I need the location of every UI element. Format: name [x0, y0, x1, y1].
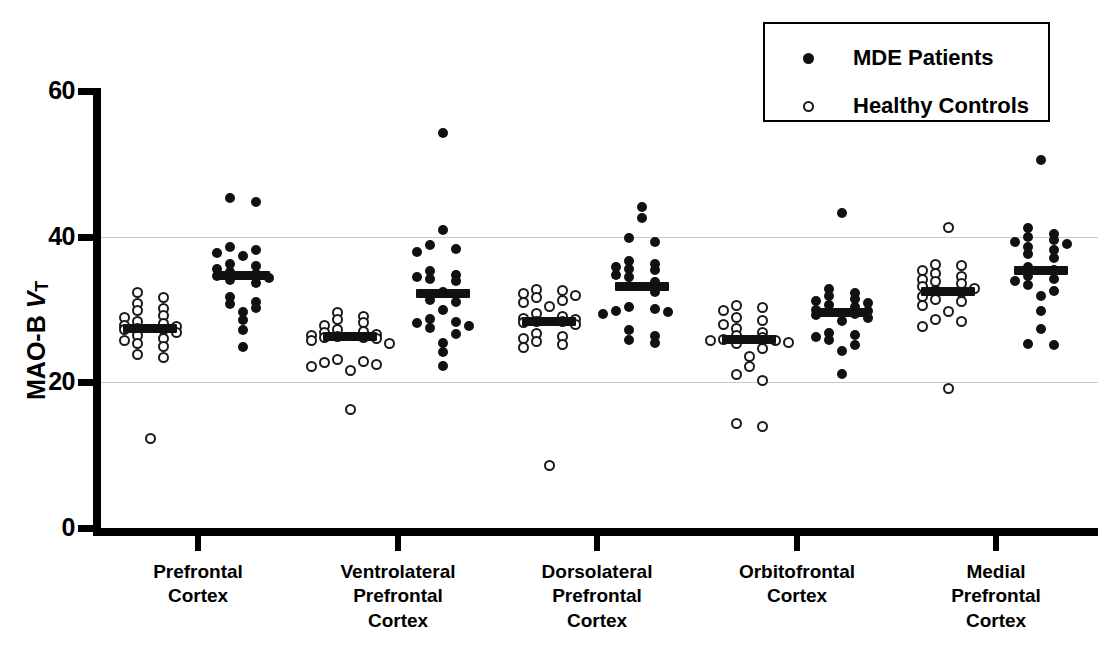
x-tick-3 — [794, 536, 800, 551]
data-point — [212, 248, 222, 258]
data-point — [251, 303, 261, 313]
data-point — [544, 460, 555, 471]
data-point — [705, 335, 716, 346]
x-category-label-0: Prefrontal Cortex — [88, 560, 308, 609]
y-axis-line — [93, 88, 101, 533]
mean-bar — [522, 317, 576, 326]
data-point — [850, 340, 860, 350]
data-point — [464, 321, 474, 331]
data-point — [731, 312, 742, 323]
data-point — [718, 305, 729, 316]
data-point — [425, 323, 435, 333]
data-point — [637, 202, 647, 212]
data-point — [238, 342, 248, 352]
data-point — [158, 292, 169, 303]
y-tick-label-60: 60 — [20, 78, 75, 103]
data-point — [1010, 276, 1020, 286]
data-point — [757, 302, 768, 313]
data-point — [238, 251, 248, 261]
data-point — [225, 242, 235, 252]
data-point — [917, 321, 928, 332]
data-point — [132, 287, 143, 298]
data-point — [438, 225, 448, 235]
mean-bar — [416, 289, 470, 298]
legend-entry-healthy-controls[interactable]: Healthy Controls — [765, 90, 1052, 122]
data-point — [570, 290, 581, 301]
data-point — [757, 375, 768, 386]
data-point — [650, 338, 660, 348]
gridline-40 — [100, 237, 1098, 238]
data-point — [358, 356, 369, 367]
data-point — [438, 347, 448, 357]
data-point — [917, 300, 928, 311]
data-point — [119, 335, 130, 346]
data-point — [1036, 155, 1046, 165]
x-tick-2 — [594, 536, 600, 551]
data-point — [956, 260, 967, 271]
data-point — [238, 315, 248, 325]
data-point — [451, 317, 461, 327]
legend-label: Healthy Controls — [853, 93, 1029, 119]
data-point — [650, 237, 660, 247]
data-point — [744, 351, 755, 362]
data-point — [251, 278, 261, 288]
x-category-label-1: Ventrolateral Prefrontal Cortex — [288, 560, 508, 633]
data-point — [731, 300, 742, 311]
data-point — [611, 270, 621, 280]
data-point — [757, 315, 768, 326]
data-point — [345, 365, 356, 376]
data-point — [731, 418, 742, 429]
x-category-label-2: Dorsolateral Prefrontal Cortex — [487, 560, 707, 633]
data-point — [544, 301, 555, 312]
data-point — [451, 297, 461, 307]
y-tick-label-40: 40 — [20, 224, 75, 249]
data-point — [306, 335, 317, 346]
data-point — [837, 208, 847, 218]
data-point — [731, 369, 742, 380]
data-point — [757, 343, 768, 354]
x-category-label-4: Medial Prefrontal Cortex — [886, 560, 1106, 633]
y-tick-60 — [78, 88, 94, 95]
data-point — [811, 332, 821, 342]
data-point — [783, 337, 794, 348]
data-point — [371, 359, 382, 370]
data-point — [438, 305, 448, 315]
data-point — [557, 295, 568, 306]
data-point — [425, 240, 435, 250]
data-point — [158, 341, 169, 352]
data-point — [425, 274, 435, 284]
filled-circle-icon — [803, 53, 814, 64]
data-point — [306, 361, 317, 372]
data-point — [451, 329, 461, 339]
data-point — [1062, 239, 1072, 249]
mean-bar — [921, 287, 975, 296]
data-point — [145, 433, 156, 444]
data-point — [663, 307, 673, 317]
mean-bar — [1014, 266, 1068, 275]
data-point — [1023, 339, 1033, 349]
data-point — [943, 306, 954, 317]
data-point — [451, 244, 461, 254]
data-point — [557, 339, 568, 350]
x-category-label-3: Orbitofrontal Cortex — [687, 560, 907, 609]
data-point — [611, 306, 621, 316]
mean-bar — [216, 271, 270, 280]
data-point — [225, 299, 235, 309]
legend-entry-mde-patients[interactable]: MDE Patients — [765, 42, 1052, 74]
data-point — [412, 272, 422, 282]
data-point — [238, 325, 248, 335]
x-tick-0 — [195, 536, 201, 551]
data-point — [158, 352, 169, 363]
data-point — [1023, 232, 1033, 242]
data-point — [438, 128, 448, 138]
data-point — [1010, 237, 1020, 247]
data-point — [531, 292, 542, 303]
data-point — [744, 361, 755, 372]
x-tick-1 — [395, 536, 401, 551]
data-point — [837, 316, 847, 326]
data-point — [637, 213, 647, 223]
data-point — [251, 197, 261, 207]
data-point — [650, 304, 660, 314]
legend[interactable]: MDE PatientsHealthy Controls — [763, 22, 1050, 122]
data-point — [1049, 235, 1059, 245]
